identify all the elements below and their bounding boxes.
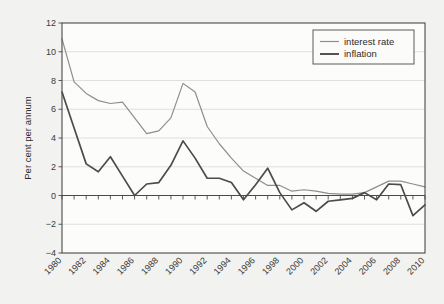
y-axis-tick-label: 6: [51, 104, 56, 114]
legend-label-inflation: inflation: [344, 48, 377, 59]
chart-container: 121086420−2−4 19801982198419861988199019…: [0, 0, 444, 304]
y-axis-tick-label: −2: [46, 219, 56, 229]
line-chart: 121086420−2−4 19801982198419861988199019…: [0, 0, 444, 304]
legend-label-interest-rate: interest rate: [344, 36, 394, 47]
y-axis-tick-label: 2: [51, 162, 56, 172]
y-axis-tick-label: 0: [51, 191, 56, 201]
y-axis-title: Per cent per annum: [22, 96, 33, 180]
y-axis-tick-label: 4: [51, 133, 56, 143]
chart-legend: interest rate inflation: [313, 30, 414, 64]
y-axis-tick-label: 8: [51, 76, 56, 86]
y-axis-tick-label: 12: [46, 18, 56, 28]
y-axis-tick-label: 10: [46, 47, 56, 57]
